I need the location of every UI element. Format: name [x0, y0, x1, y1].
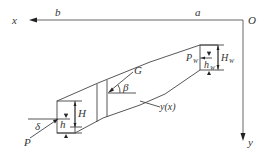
delta-angle-label: δ: [35, 120, 41, 132]
diagram-canvas: x b a O y P W H W h W H h P δ: [0, 0, 270, 156]
y-axis-label: y: [247, 136, 253, 148]
h-height-label: H: [77, 107, 87, 119]
hw-height-subscript: W: [229, 58, 235, 64]
g-label: G: [134, 64, 142, 76]
beta-arc: [118, 85, 120, 93]
mark-b-label: b: [55, 6, 61, 18]
mark-a-label: a: [195, 6, 201, 18]
hw-height-label: H: [220, 52, 229, 63]
hw-depth-label: h: [204, 59, 209, 70]
pw-subscript: W: [193, 58, 199, 64]
y-axis-arrow-icon: [241, 133, 246, 141]
yx-curve-label: y(x): [159, 101, 176, 113]
g-force-arrow: [110, 72, 133, 91]
beta-angle-label: β: [122, 81, 129, 93]
h-depth-label: h: [60, 118, 66, 130]
p-label: P: [23, 136, 31, 148]
origin-label: O: [248, 14, 256, 26]
pw-label: P: [185, 52, 192, 63]
lower-profile-curve: [75, 70, 200, 133]
x-axis-label: x: [11, 14, 17, 26]
x-axis-arrow-icon: [29, 18, 37, 23]
